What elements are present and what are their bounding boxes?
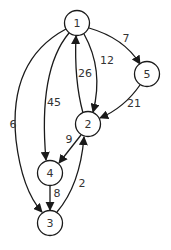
node-2-label: 2 — [85, 118, 92, 131]
node-1: 1 — [65, 11, 90, 36]
edge-weight-2-4: 9 — [66, 133, 73, 146]
edge-1-to-3 — [15, 29, 66, 212]
node-5-label: 5 — [144, 68, 151, 81]
edge-1-to-5 — [89, 28, 140, 64]
edge-weight-1-5: 7 — [123, 32, 130, 45]
node-4-label: 4 — [47, 167, 54, 180]
node-5: 5 — [135, 62, 160, 87]
node-3-label: 3 — [47, 217, 54, 230]
node-3: 3 — [38, 211, 63, 236]
edge-weight-1-4: 45 — [47, 96, 61, 109]
node-2: 2 — [76, 112, 101, 137]
edge-weight-4-3: 8 — [54, 187, 61, 200]
edge-weight-5-2: 21 — [127, 97, 141, 110]
edge-weight-2-1: 26 — [78, 67, 92, 80]
edge-weight-1-3: 6 — [10, 118, 17, 131]
edge-weight-3-2: 2 — [79, 177, 86, 190]
graph-diagram: 7 12 26 45 6 21 9 8 2 1 2 3 4 5 — [0, 0, 171, 250]
edge-weight-1-2: 12 — [100, 54, 114, 67]
node-4: 4 — [38, 161, 63, 186]
node-1-label: 1 — [74, 17, 81, 30]
